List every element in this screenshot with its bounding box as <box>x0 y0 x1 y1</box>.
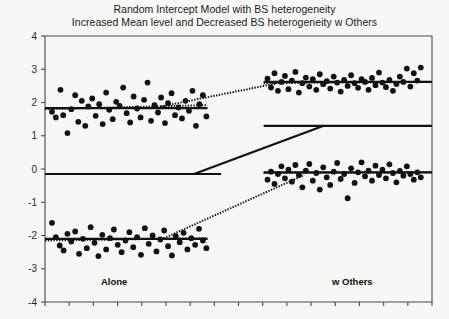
y-axis-tick-label: 1 <box>31 130 37 141</box>
scatter-point <box>390 88 396 94</box>
scatter-point <box>265 177 271 183</box>
scatter-point <box>185 247 191 253</box>
scatter-point <box>200 238 206 244</box>
scatter-point <box>58 87 64 93</box>
scatter-point <box>418 174 424 180</box>
scatter-point <box>146 241 152 247</box>
scatter-point <box>65 130 71 136</box>
scatter-point <box>376 172 382 178</box>
scatter-point <box>327 182 333 188</box>
reference-line-dotted-lower-connector <box>161 175 304 240</box>
scatter-point <box>400 79 406 85</box>
scatter-point <box>165 243 171 249</box>
scatter-point <box>154 249 160 255</box>
scatter-point <box>303 168 309 174</box>
scatter-point <box>142 225 148 231</box>
scatter-point <box>320 164 326 170</box>
scatter-point <box>313 87 319 93</box>
scatter-point <box>376 70 382 76</box>
scatter-point <box>404 66 410 72</box>
scatter-point <box>141 97 147 103</box>
scatter-point <box>317 71 323 77</box>
scatter-point <box>279 163 285 169</box>
scatter-point <box>53 234 59 240</box>
scatter-plot-canvas: 43210-1-2-3-4 <box>0 0 449 319</box>
scatter-point <box>317 187 323 193</box>
scatter-point <box>296 90 302 96</box>
scatter-point <box>120 85 126 91</box>
scatter-point <box>282 73 288 79</box>
scatter-point <box>203 114 209 120</box>
scatter-point <box>75 119 81 125</box>
scatter-point <box>190 88 196 94</box>
scatter-point <box>345 83 351 89</box>
scatter-point <box>162 120 168 126</box>
scatter-point <box>366 168 372 174</box>
scatter-point <box>414 78 420 84</box>
scatter-point <box>327 86 333 92</box>
scatter-point <box>338 176 344 182</box>
scatter-point <box>265 76 271 82</box>
scatter-point <box>93 113 99 119</box>
scatter-point <box>158 95 164 101</box>
scatter-point <box>268 169 274 175</box>
scatter-point <box>115 242 121 248</box>
scatter-point <box>72 92 78 98</box>
scatter-point <box>362 79 368 85</box>
y-axis-tick-label: -2 <box>28 230 37 241</box>
scatter-point <box>181 230 187 236</box>
scatter-point <box>299 80 305 86</box>
scatter-point <box>96 253 102 259</box>
scatter-point <box>387 77 393 83</box>
scatter-series <box>265 65 424 96</box>
scatter-point <box>407 171 413 177</box>
scatter-point <box>80 236 86 242</box>
scatter-point <box>92 240 98 246</box>
scatter-point <box>380 80 386 86</box>
scatter-point <box>404 163 410 169</box>
scatter-point <box>186 108 192 114</box>
scatter-point <box>117 103 123 109</box>
scatter-point <box>96 101 102 107</box>
scatter-point <box>341 171 347 177</box>
scatter-point <box>85 104 91 110</box>
scatter-point <box>383 84 389 90</box>
scatter-point <box>373 163 379 169</box>
scatter-point <box>196 226 202 232</box>
scatter-point <box>380 167 386 173</box>
scatter-point <box>99 232 105 238</box>
scatter-point <box>400 173 406 179</box>
scatter-point <box>134 106 140 112</box>
scatter-points <box>49 65 424 259</box>
scatter-point <box>173 233 179 239</box>
scatter-point <box>82 123 88 129</box>
scatter-point <box>324 78 330 84</box>
scatter-point <box>275 88 281 94</box>
scatter-point <box>345 195 351 201</box>
scatter-point <box>418 65 424 71</box>
scatter-point <box>134 234 140 240</box>
scatter-point <box>334 80 340 86</box>
scatter-point <box>407 84 413 90</box>
scatter-series <box>265 159 424 201</box>
reference-line-solid-diagonal <box>194 126 324 174</box>
y-axis-tick-label: -1 <box>28 197 37 208</box>
scatter-point <box>76 251 82 257</box>
scatter-point <box>324 174 330 180</box>
scatter-point <box>177 239 183 245</box>
scatter-point <box>110 116 116 122</box>
scatter-point <box>383 175 389 181</box>
scatter-point <box>359 159 365 165</box>
scatter-point <box>169 90 175 96</box>
scatter-point <box>145 80 151 86</box>
scatter-point <box>68 106 74 112</box>
y-axis-ticks: 43210-1-2-3-4 <box>28 31 45 308</box>
scatter-point <box>65 231 71 237</box>
scatter-point <box>161 228 167 234</box>
scatter-point <box>68 239 74 245</box>
x-axis-ticks <box>45 302 432 306</box>
y-axis-tick-label: 2 <box>31 97 37 108</box>
scatter-point <box>138 252 144 258</box>
scatter-point <box>268 85 274 91</box>
scatter-point <box>272 181 278 187</box>
